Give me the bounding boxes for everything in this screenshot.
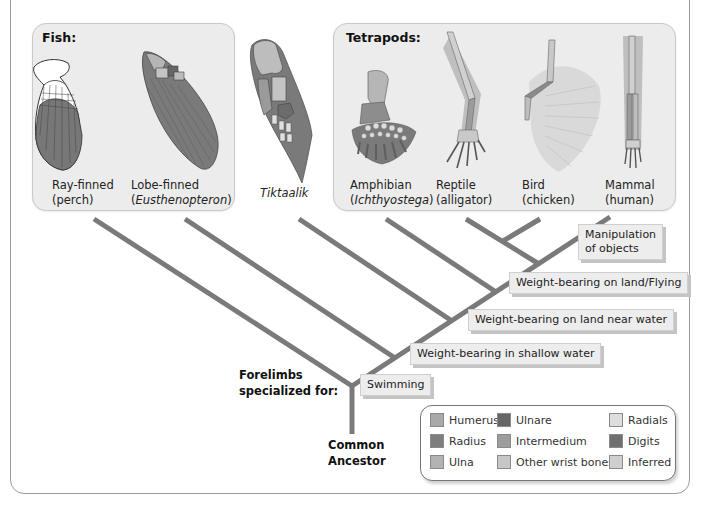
legend-item-intermedium: Intermedium xyxy=(497,434,587,448)
legend-item-humerus: Humerus xyxy=(430,413,499,427)
ancestor-line: Ancestor xyxy=(328,453,386,469)
inferred-swatch xyxy=(609,455,623,469)
intermedium-swatch xyxy=(497,434,511,448)
trait-land-flying: Weight-bearing on land/Flying xyxy=(509,272,688,294)
ulna-swatch xyxy=(430,455,444,469)
legend-item-inferred: Inferred xyxy=(609,455,671,469)
ancestor-line: Common xyxy=(328,437,386,453)
ulnare-swatch xyxy=(497,413,511,427)
radius-swatch xyxy=(430,434,444,448)
branch-bird xyxy=(503,219,540,241)
humerus-swatch xyxy=(430,413,444,427)
trait-shallow-water: Weight-bearing in shallow water xyxy=(410,343,601,365)
legend-item-ulnare: Ulnare xyxy=(497,413,552,427)
legend-item-radius: Radius xyxy=(430,434,486,448)
heading-line: specialized for: xyxy=(239,383,338,399)
trait-line: of objects xyxy=(585,242,656,256)
legend-label: Digits xyxy=(628,435,660,448)
legend-label: Intermedium xyxy=(516,435,587,448)
legend-item-digits: Digits xyxy=(609,434,660,448)
trait-land-near-water: Weight-bearing on land near water xyxy=(468,309,674,331)
legend-label: Inferred xyxy=(628,456,671,469)
trait-line: Manipulation xyxy=(585,228,656,242)
forelimbs-heading: Forelimbs specialized for: xyxy=(239,367,338,399)
legend: Humerus Radius Ulna Ulnare Intermedium O… xyxy=(420,405,676,481)
radials-swatch xyxy=(609,413,623,427)
legend-label: Humerus xyxy=(449,414,499,427)
legend-item-ulna: Ulna xyxy=(430,455,474,469)
branch-tiktaalik xyxy=(299,219,452,321)
legend-item-other-wrist-bones: Other wrist bones xyxy=(497,455,614,469)
common-ancestor-label: Common Ancestor xyxy=(328,437,386,469)
legend-label: Other wrist bones xyxy=(516,456,614,469)
legend-label: Ulna xyxy=(449,456,474,469)
legend-label: Ulnare xyxy=(516,414,552,427)
digits-swatch xyxy=(609,434,623,448)
trait-swimming: Swimming xyxy=(360,374,431,396)
heading-line: Forelimbs xyxy=(239,367,338,383)
branch-lobe-finned xyxy=(185,219,395,358)
other-wrist-swatch xyxy=(497,455,511,469)
legend-item-radials: Radials xyxy=(609,413,668,427)
legend-label: Radials xyxy=(628,414,668,427)
trait-manipulation: Manipulation of objects xyxy=(578,224,663,260)
legend-label: Radius xyxy=(449,435,486,448)
